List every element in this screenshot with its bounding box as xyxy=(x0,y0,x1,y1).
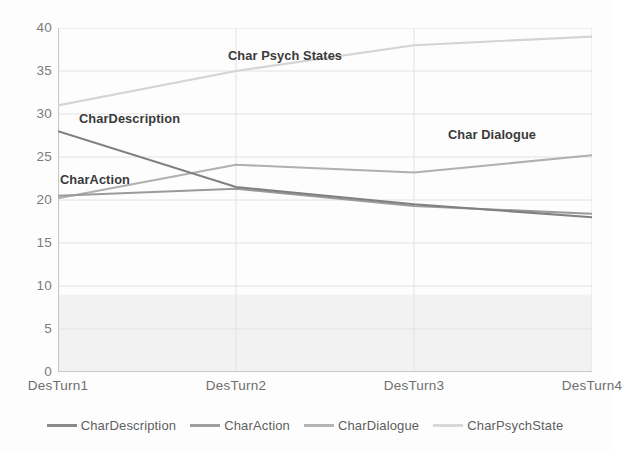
y-tick-label: 0 xyxy=(18,365,52,379)
plot-svg xyxy=(58,28,592,372)
legend-swatch-icon xyxy=(47,424,77,427)
plot-area xyxy=(58,28,592,372)
legend-swatch-icon xyxy=(433,424,463,427)
series-annotation: CharDescription xyxy=(79,113,180,126)
legend-swatch-icon xyxy=(304,424,334,427)
y-tick-label: 25 xyxy=(18,150,52,164)
legend-label: CharDescription xyxy=(81,419,176,432)
y-tick-label: 30 xyxy=(18,107,52,121)
y-tick-label: 20 xyxy=(18,193,52,207)
x-axis: DesTurn1DesTurn2DesTurn3DesTurn4 xyxy=(58,379,592,399)
y-tick-label: 5 xyxy=(18,322,52,336)
x-tick-label: DesTurn4 xyxy=(532,379,627,394)
y-axis: 4035302520151050 xyxy=(14,28,52,372)
chart-legend: CharDescriptionCharActionCharDialogueCha… xyxy=(0,412,610,438)
legend-label: CharDialogue xyxy=(338,419,419,432)
x-tick-label: DesTurn2 xyxy=(176,379,296,394)
legend-label: CharAction xyxy=(224,419,290,432)
legend-item[interactable]: CharDescription xyxy=(47,419,176,432)
shaded-band xyxy=(58,295,592,372)
x-tick-label: DesTurn1 xyxy=(0,379,118,394)
x-tick-label: DesTurn3 xyxy=(354,379,474,394)
legend-label: CharPsychState xyxy=(467,419,563,432)
legend-item[interactable]: CharAction xyxy=(190,419,290,432)
y-tick-label: 15 xyxy=(18,236,52,250)
series-annotation: Char Dialogue xyxy=(448,129,536,142)
series-line-charaction xyxy=(58,189,592,214)
legend-item[interactable]: CharPsychState xyxy=(433,419,563,432)
y-tick-label: 40 xyxy=(18,21,52,35)
series-line-chardescription xyxy=(58,131,592,217)
y-tick-label: 35 xyxy=(18,64,52,78)
series-annotation: Char Psych States xyxy=(228,50,342,63)
y-tick-label: 10 xyxy=(18,279,52,293)
legend-item[interactable]: CharDialogue xyxy=(304,419,419,432)
legend-swatch-icon xyxy=(190,424,220,427)
series-annotation: CharAction xyxy=(60,174,130,187)
